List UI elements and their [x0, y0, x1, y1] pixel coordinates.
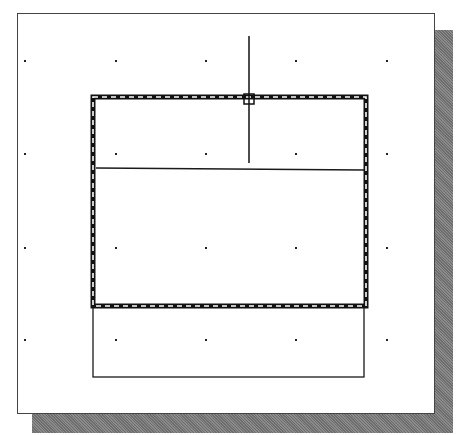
- grid-dot: [205, 339, 207, 341]
- grid-dot: [295, 247, 297, 249]
- grid-dot: [386, 60, 388, 62]
- grid-dot: [115, 153, 117, 155]
- drawing-canvas[interactable]: [0, 0, 463, 435]
- grid-dots: [24, 60, 388, 341]
- grid-dot: [205, 153, 207, 155]
- grid-dot: [205, 60, 207, 62]
- grid-dot: [24, 153, 26, 155]
- divider-line[interactable]: [96, 168, 364, 170]
- grid-dot: [115, 247, 117, 249]
- grid-dot: [24, 339, 26, 341]
- grid-dot: [386, 247, 388, 249]
- grid-dot: [386, 153, 388, 155]
- grid-dot: [386, 339, 388, 341]
- grid-dot: [115, 60, 117, 62]
- grid-dot: [295, 60, 297, 62]
- lower-rectangle[interactable]: [93, 306, 364, 377]
- grid-dot: [24, 60, 26, 62]
- selected-rectangle[interactable]: [93, 97, 366, 306]
- grid-dot: [24, 247, 26, 249]
- grid-dot: [205, 247, 207, 249]
- grid-dot: [295, 339, 297, 341]
- grid-dot: [295, 153, 297, 155]
- selected-rectangle-dash: [93, 97, 366, 306]
- grid-dot: [115, 339, 117, 341]
